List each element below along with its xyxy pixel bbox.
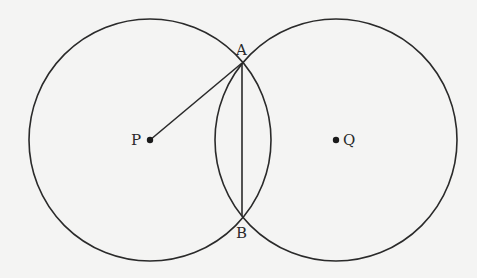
point-q-dot: [333, 137, 339, 143]
segment-pa: [150, 63, 242, 140]
geometry-diagram: P Q A B: [0, 0, 477, 278]
label-q: Q: [343, 131, 355, 149]
label-p: P: [131, 131, 141, 149]
point-p-dot: [147, 137, 153, 143]
label-a: A: [235, 41, 247, 59]
label-b: B: [236, 224, 247, 242]
